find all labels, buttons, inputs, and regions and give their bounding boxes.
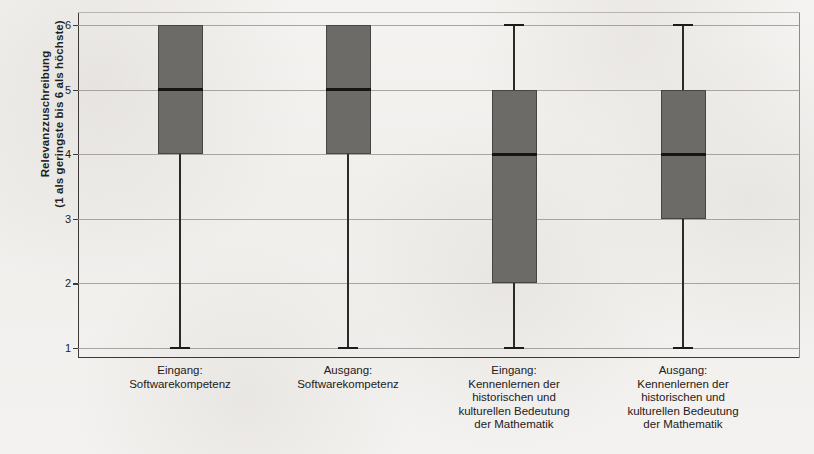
whisker-upper-4 (682, 25, 684, 90)
x-label-eingang-softwarekompetenz: Eingang:Softwarekompetenz (100, 364, 260, 391)
x-label-ausgang-kennenlernen-mathematik: Ausgang:Kennenlernen derhistorischen und… (603, 364, 763, 432)
x-label-line-4: kulturellen Bedeutung (434, 405, 594, 419)
y-axis-title: Relevanzzuschreibung (1 als geringste bi… (38, 0, 66, 284)
y-axis-title-line1: Relevanzzuschreibung (39, 51, 51, 178)
x-label-line-1: Eingang: (434, 364, 594, 378)
y-tick-label-3: 3 (65, 213, 71, 225)
x-label-line-1: Ausgang: (268, 364, 428, 378)
y-tick-label-1: 1 (65, 342, 71, 354)
x-axis-category-labels: Eingang:SoftwarekompetenzAusgang:Softwar… (78, 364, 800, 450)
x-label-line-2: Kennenlernen der (603, 378, 763, 392)
y-tick-label-2: 2 (65, 277, 71, 289)
whisker-cap-upper-4 (673, 24, 693, 27)
x-label-line-2: Kennenlernen der (434, 378, 594, 392)
x-label-eingang-kennenlernen-mathematik: Eingang:Kennenlernen derhistorischen und… (434, 364, 594, 432)
whisker-cap-lower-4 (673, 347, 693, 350)
median-line-4 (661, 153, 706, 156)
x-label-line-5: der Mathematik (434, 418, 594, 432)
plot-area: 123456 (78, 12, 800, 358)
x-label-line-4: kulturellen Bedeutung (603, 405, 763, 419)
boxplot-ausgang-kennenlernen-mathematik (78, 12, 800, 358)
boxplot-figure: Relevanzzuschreibung (1 als geringste bi… (0, 0, 814, 454)
x-label-line-1: Eingang: (100, 364, 260, 378)
x-label-line-3: historischen und (603, 391, 763, 405)
x-label-line-2: Softwarekompetenz (268, 378, 428, 392)
y-axis-title-line2: (1 als geringste bis 6 als höchste) (52, 0, 66, 284)
x-label-line-2: Softwarekompetenz (100, 378, 260, 392)
y-tick-label-5: 5 (65, 84, 71, 96)
y-tick-label-4: 4 (65, 148, 71, 160)
whisker-lower-4 (682, 219, 684, 348)
x-label-line-1: Ausgang: (603, 364, 763, 378)
x-label-ausgang-softwarekompetenz: Ausgang:Softwarekompetenz (268, 364, 428, 391)
x-label-line-3: historischen und (434, 391, 594, 405)
y-tick-label-6: 6 (65, 19, 71, 31)
x-label-line-5: der Mathematik (603, 418, 763, 432)
